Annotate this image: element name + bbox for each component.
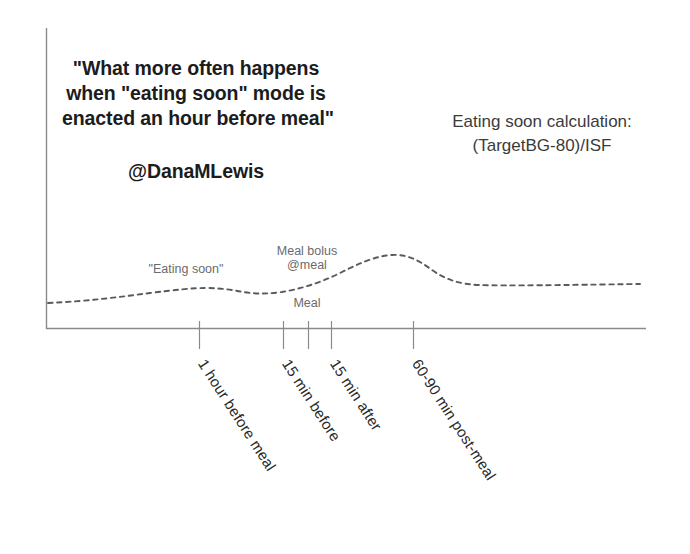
- eating-soon-calculation-note: Eating soon calculation: (TargetBG-80)/I…: [418, 110, 666, 158]
- calculation-formula: (TargetBG-80)/ISF: [418, 134, 666, 158]
- annotation-meal-bolus-line-1: Meal bolus: [277, 244, 337, 258]
- figure-canvas: "What more often happens when "eating so…: [0, 0, 690, 554]
- author-handle: @DanaMLewis: [62, 160, 330, 183]
- pull-quote-line-3: enacted an hour before meal": [62, 106, 330, 131]
- pull-quote: "What more often happens when "eating so…: [62, 56, 330, 131]
- calculation-title: Eating soon calculation:: [418, 110, 666, 134]
- annotation-meal-bolus: Meal bolus @meal: [257, 244, 357, 272]
- annotation-meal: Meal: [262, 296, 352, 310]
- pull-quote-line-1: "What more often happens: [62, 56, 330, 81]
- annotation-meal-bolus-line-2: @meal: [287, 258, 327, 272]
- pull-quote-line-2: when "eating soon" mode is: [62, 81, 330, 106]
- annotation-eating-soon: "Eating soon": [131, 262, 241, 276]
